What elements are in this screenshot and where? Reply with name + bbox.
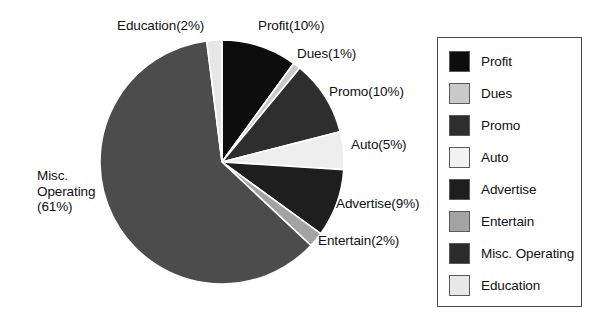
pie-label-promo: Promo(10%)	[329, 84, 404, 100]
legend-swatch-icon	[449, 275, 470, 296]
pie-label-profit: Profit(10%)	[258, 18, 324, 34]
pie-label-education: Education(2%)	[117, 18, 204, 34]
legend-item-label: Misc. Operating	[481, 246, 574, 261]
legend-swatch-icon	[449, 115, 470, 136]
pie-label-entertain: Entertain(2%)	[318, 233, 399, 249]
legend-item-label: Promo	[481, 118, 520, 133]
legend-item-label: Education	[481, 278, 540, 293]
pie-label-misc-operating-line3: (61%)	[37, 199, 73, 214]
pie-slice-group	[100, 40, 344, 284]
legend-item-label: Advertise	[481, 182, 536, 197]
legend-swatch-icon	[449, 211, 470, 232]
legend-swatch-icon	[449, 243, 470, 264]
legend-item: Profit	[449, 45, 577, 77]
pie-chart-graphic	[0, 0, 430, 333]
legend-item-label: Entertain	[481, 214, 534, 229]
legend-item-list: ProfitDuesPromoAutoAdvertiseEntertainMis…	[449, 45, 577, 301]
pie-label-misc-operating: Misc.Operating(61%)	[37, 168, 95, 215]
legend-item: Auto	[449, 141, 577, 173]
pie-label-misc-operating-line1: Misc.	[37, 168, 68, 183]
legend-item: Misc. Operating	[449, 237, 577, 269]
pie-label-advertise: Advertise(9%)	[336, 196, 419, 212]
legend-swatch-icon	[449, 51, 470, 72]
legend-item: Education	[449, 269, 577, 301]
legend-item: Entertain	[449, 205, 577, 237]
legend-item-label: Dues	[481, 86, 512, 101]
legend-item: Advertise	[449, 173, 577, 205]
legend-swatch-icon	[449, 83, 470, 104]
legend-item: Promo	[449, 109, 577, 141]
legend-item: Dues	[449, 77, 577, 109]
pie-label-misc-operating-line2: Operating	[37, 184, 95, 199]
pie-label-dues: Dues(1%)	[297, 46, 356, 62]
legend-swatch-icon	[449, 179, 470, 200]
legend-swatch-icon	[449, 147, 470, 168]
chart-legend: ProfitDuesPromoAutoAdvertiseEntertainMis…	[437, 37, 582, 307]
legend-item-label: Auto	[481, 150, 508, 165]
pie-label-auto: Auto(5%)	[351, 137, 406, 153]
legend-item-label: Profit	[481, 54, 512, 69]
pie-chart-area: Education(2%) Profit(10%) Dues(1%) Promo…	[0, 0, 430, 333]
